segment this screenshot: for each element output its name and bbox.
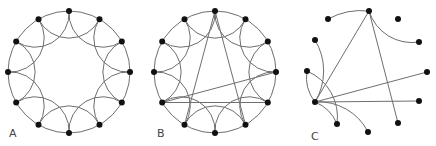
second-neighbor-edge [16, 42, 35, 103]
shortcut-edge [369, 11, 398, 123]
node [395, 16, 401, 22]
node [265, 39, 271, 45]
node [304, 68, 310, 74]
network-diagram [0, 0, 436, 146]
node [424, 69, 430, 75]
ring-edge [154, 11, 276, 133]
ring-edge [8, 11, 130, 133]
node [119, 100, 125, 106]
node [182, 122, 188, 128]
edge [369, 11, 419, 43]
second-neighbor-edge [249, 42, 268, 103]
node [243, 122, 249, 128]
node [182, 16, 188, 22]
second-neighbor-edge [185, 19, 246, 38]
node [312, 99, 318, 105]
shortcut-edge [315, 72, 427, 102]
panel-label-c: C [311, 130, 319, 143]
node [66, 8, 72, 14]
node [243, 16, 249, 22]
node [36, 122, 42, 128]
second-neighbor-edge [162, 42, 181, 103]
node [159, 39, 165, 45]
edge [328, 11, 369, 19]
node [416, 39, 422, 45]
node [151, 69, 157, 75]
node [334, 121, 340, 127]
node [159, 100, 165, 106]
node [97, 16, 103, 22]
shortcut-edge [315, 11, 369, 102]
node [212, 130, 218, 136]
node [312, 37, 318, 43]
shortcut-edge [315, 101, 419, 102]
panel-label-a: A [9, 127, 17, 140]
second-neighbor-edge [39, 19, 100, 38]
node [416, 98, 422, 104]
node [365, 129, 371, 135]
node [97, 122, 103, 128]
edge [315, 40, 324, 102]
edge [315, 102, 337, 124]
node [36, 16, 42, 22]
panel-label-b: B [157, 127, 165, 140]
node [13, 100, 19, 106]
second-neighbor-edge [39, 106, 100, 125]
node [366, 8, 372, 14]
second-neighbor-edge [103, 42, 122, 103]
node [212, 8, 218, 14]
node [119, 39, 125, 45]
node [265, 100, 271, 106]
second-neighbor-edge [185, 106, 246, 125]
node [5, 69, 11, 75]
node [273, 69, 279, 75]
edge [306, 71, 315, 102]
node [66, 130, 72, 136]
node [127, 69, 133, 75]
node [395, 120, 401, 126]
node [13, 39, 19, 45]
node [325, 16, 331, 22]
